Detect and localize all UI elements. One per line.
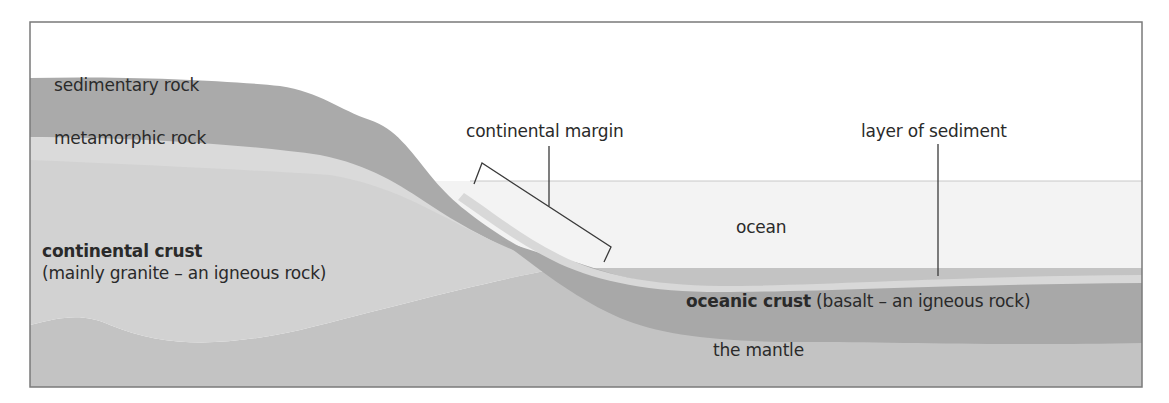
label-continental-margin: continental margin bbox=[466, 121, 624, 141]
label-oceanic-crust-desc: (basalt – an igneous rock) bbox=[811, 291, 1030, 311]
label-continental-crust-title: continental crust bbox=[42, 241, 202, 261]
label-sedimentary-rock: sedimentary rock bbox=[54, 75, 199, 95]
label-metamorphic-rock: metamorphic rock bbox=[54, 128, 206, 148]
label-oceanic-crust-title: oceanic crust bbox=[686, 291, 811, 311]
label-continental-crust-desc: (mainly granite – an igneous rock) bbox=[42, 263, 326, 283]
label-layer-of-sediment: layer of sediment bbox=[861, 121, 1007, 141]
label-ocean: ocean bbox=[736, 217, 786, 237]
label-oceanic-crust: oceanic crust (basalt – an igneous rock) bbox=[686, 291, 1030, 311]
label-mantle: the mantle bbox=[713, 340, 804, 360]
earth-crust-diagram bbox=[0, 0, 1169, 403]
